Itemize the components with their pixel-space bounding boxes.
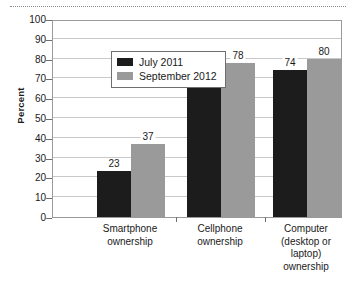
bar-value-label: 37 bbox=[140, 131, 155, 142]
x-axis-category-label: Computer(desktop orlaptop)ownership bbox=[256, 223, 354, 273]
bar-chart-figure: Percent 0102030405060708090100 233777787… bbox=[0, 0, 354, 283]
bar[interactable] bbox=[97, 171, 131, 217]
y-axis-tick-label: 30 bbox=[12, 154, 46, 164]
category-label-line: Cellphone bbox=[170, 223, 270, 236]
y-axis-tick-label: 20 bbox=[12, 173, 46, 183]
top-dotted-rule bbox=[10, 6, 346, 7]
category-label-line: ownership bbox=[80, 236, 180, 249]
y-axis-tick-label: 90 bbox=[12, 35, 46, 45]
legend-item-label: September 2012 bbox=[139, 70, 217, 82]
legend-color-swatch bbox=[117, 58, 133, 66]
bar[interactable] bbox=[131, 144, 165, 217]
category-separator-tick bbox=[176, 217, 177, 222]
y-axis-tick-label: 10 bbox=[12, 193, 46, 203]
y-axis-tick-mark bbox=[46, 218, 52, 219]
y-axis-title: Percent bbox=[15, 76, 26, 136]
legend-item[interactable]: September 2012 bbox=[117, 69, 217, 83]
category-label-line: Computer bbox=[256, 223, 354, 236]
bar-value-label: 78 bbox=[230, 50, 245, 61]
bar-value-label: 23 bbox=[106, 158, 121, 169]
bar[interactable] bbox=[221, 63, 255, 217]
y-axis-tick-label: 80 bbox=[12, 55, 46, 65]
bar-column[interactable]: 74 bbox=[273, 21, 307, 217]
chart-legend: July 2011September 2012 bbox=[111, 51, 226, 88]
category-label-line: ownership bbox=[170, 236, 270, 249]
category-label-line: Smartphone bbox=[80, 223, 180, 236]
bar-value-label: 74 bbox=[282, 57, 297, 68]
bar-column[interactable]: 80 bbox=[307, 21, 341, 217]
y-axis-tick-label: 40 bbox=[12, 134, 46, 144]
legend-color-swatch bbox=[117, 72, 133, 80]
category-label-line: laptop) bbox=[256, 248, 354, 261]
category-label-line: (desktop or bbox=[256, 236, 354, 249]
y-axis-tick-label: 100 bbox=[12, 15, 46, 25]
category-separator-tick bbox=[265, 217, 266, 222]
bar[interactable] bbox=[273, 70, 307, 217]
x-axis-category-label: Smartphoneownership bbox=[80, 223, 180, 248]
y-axis-tick-label: 60 bbox=[12, 94, 46, 104]
y-axis-tick-label: 70 bbox=[12, 74, 46, 84]
legend-item[interactable]: July 2011 bbox=[117, 55, 217, 69]
y-axis-tick-label: 50 bbox=[12, 114, 46, 124]
bar[interactable] bbox=[307, 59, 341, 217]
bar-column[interactable]: 78 bbox=[221, 21, 255, 217]
category-label-line: ownership bbox=[256, 261, 354, 274]
bar-group: 7480 bbox=[273, 21, 341, 217]
x-axis-category-label: Cellphoneownership bbox=[170, 223, 270, 248]
y-axis-tick-label: 0 bbox=[12, 213, 46, 223]
bar-value-label: 80 bbox=[316, 46, 331, 57]
legend-item-label: July 2011 bbox=[139, 56, 183, 68]
plot-area: 233777787480 July 2011September 2012 bbox=[52, 20, 342, 218]
